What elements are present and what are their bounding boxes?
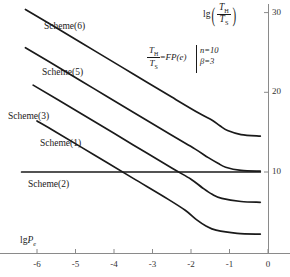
right-paren-icon: ) [232,5,236,25]
x-axis-tick-label: -1 [223,260,237,269]
equation-annotation: THTS=FP(e) [147,45,186,70]
y-axis-title-lg: lg [203,9,210,19]
equation-den-subscript: S [155,64,158,70]
x-axis-tick-label: -2 [184,260,198,269]
parameter-beta: β=3 [200,56,219,67]
x-axis-title-subscript: e [33,240,36,247]
x-axis-tick-label: -5 [69,260,83,269]
equation-denominator: TS [147,58,160,70]
equation-num-subscript: H [154,51,158,57]
x-axis-tick-label: -3 [146,260,160,269]
y-axis-den-subscript: S [225,19,229,26]
series-label-scheme2: Scheme(2) [28,180,69,190]
data-series-group [22,9,261,234]
annotation-divider [196,45,197,73]
x-axis-title: lgPe [20,236,36,247]
axes-group [0,4,290,254]
series-label-scheme6: Scheme(6) [44,22,85,32]
parameter-beta-text: β=3 [200,56,214,66]
left-paren-icon: ( [212,5,216,25]
y-axis-tick-label: 10 [272,167,281,176]
equation-numerator: TH [147,45,160,58]
equation-fraction: THTS [147,45,160,70]
equation-rhs: FP(e) [165,52,186,62]
parameter-n-text: n=10 [200,45,219,55]
x-axis-tick-label: 0 [261,260,275,269]
y-axis-title-denominator: TS [217,15,231,26]
series-label-scheme3: Scheme(3) [8,112,49,122]
series-label-scheme1: Scheme(1) [40,139,81,149]
y-axis-title-fraction: THTS [217,3,231,26]
x-axis-tick-label: -6 [30,260,44,269]
parameters-annotation: n=10 β=3 [200,45,219,66]
y-axis-tick-label: 30 [272,8,281,17]
parameter-n: n=10 [200,45,219,56]
y-axis-num-subscript: H [224,7,229,14]
y-axis-title: lg(THTS) [203,3,238,26]
chart-container: -6-5-4-3-2-10 102030 Scheme(6)Scheme(5)S… [0,0,290,277]
x-axis-tick-label: -4 [107,260,121,269]
y-axis-tick-label: 20 [272,87,281,96]
series-label-scheme5: Scheme(5) [42,68,83,78]
